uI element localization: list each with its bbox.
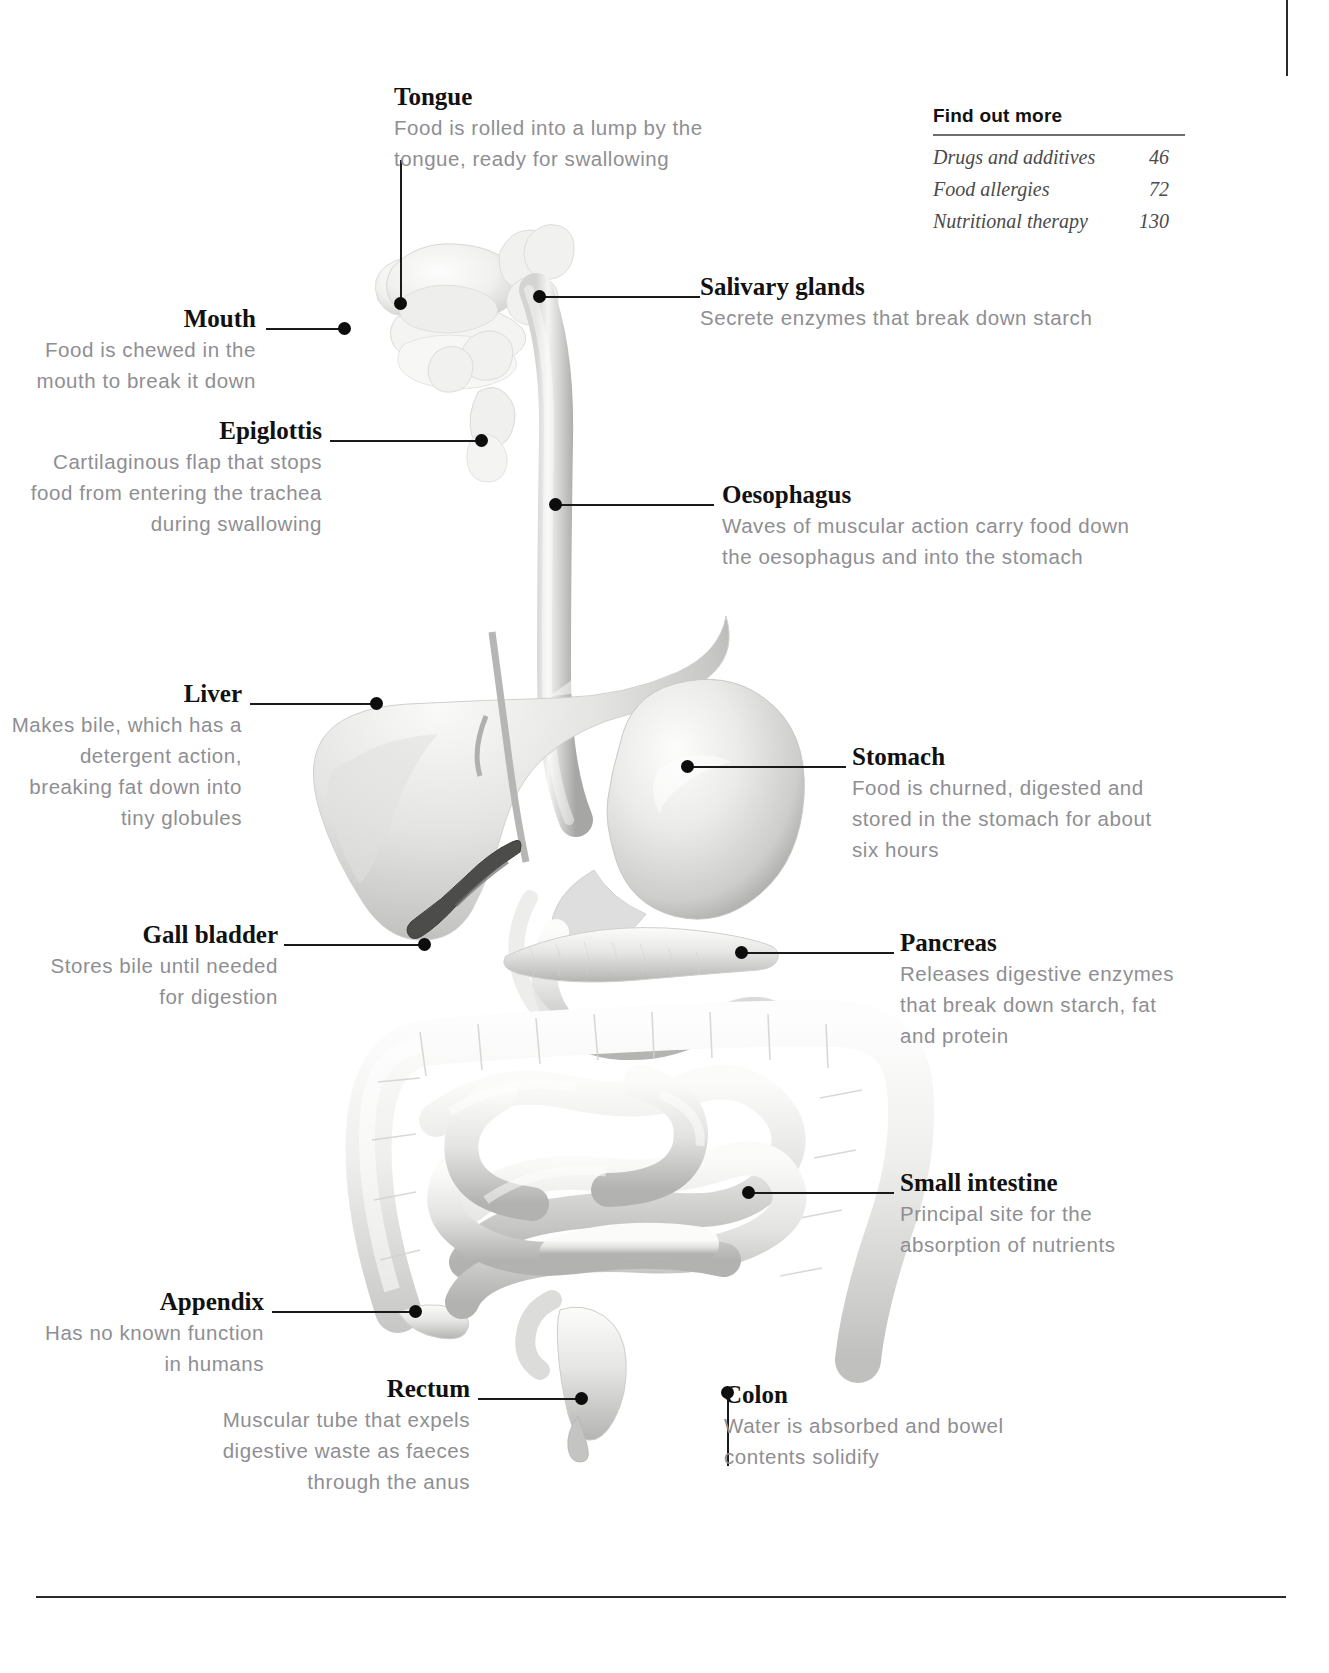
salivary-glands-shape — [428, 225, 574, 393]
callout-small-intestine-body: Principal site for theabsorption of nutr… — [900, 1199, 1190, 1261]
oesophagus-shape — [536, 290, 576, 820]
callout-epiglottis: Epiglottis Cartilaginous flap that stops… — [10, 418, 322, 540]
liver-shape — [313, 616, 729, 940]
callout-mouth-body: Food is chewed in themouth to break it d… — [10, 335, 256, 397]
find-out-more-row[interactable]: Food allergies72 — [933, 174, 1185, 206]
callout-appendix-body: Has no known functionin humans — [10, 1318, 264, 1380]
dot-gall-bladder — [418, 938, 431, 951]
find-out-more-page-number: 130 — [1129, 206, 1185, 238]
callout-small-intestine-title: Small intestine — [900, 1170, 1190, 1196]
callout-stomach-title: Stomach — [852, 744, 1152, 770]
callout-mouth: Mouth Food is chewed in themouth to brea… — [10, 306, 256, 397]
leader-gall-bladder — [284, 944, 426, 946]
dot-liver — [370, 697, 383, 710]
rectum-shape — [525, 1300, 626, 1462]
leader-epiglottis — [330, 440, 482, 442]
callout-mouth-title: Mouth — [10, 306, 256, 332]
find-out-more-table: Drugs and additives46Food allergies72Nut… — [933, 142, 1185, 238]
callout-rectum-title: Rectum — [172, 1376, 470, 1402]
leader-mouth — [266, 328, 346, 330]
callout-stomach: Stomach Food is churned, digested andsto… — [852, 744, 1152, 866]
find-out-more-page-number: 72 — [1129, 174, 1185, 206]
callout-salivary-glands-title: Salivary glands — [700, 274, 1120, 300]
leader-oesophagus — [556, 504, 714, 506]
colon-highlight — [367, 1046, 841, 1290]
callout-salivary-glands-body: Secrete enzymes that break down starch — [700, 303, 1120, 334]
callout-gall-bladder-title: Gall bladder — [10, 922, 278, 948]
callout-rectum: Rectum Muscular tube that expelsdigestiv… — [172, 1376, 470, 1498]
find-out-more-label: Drugs and additives — [933, 142, 1129, 174]
dot-rectum — [575, 1392, 588, 1405]
dot-stomach — [681, 760, 694, 773]
tongue-shape — [400, 285, 498, 333]
find-out-more-row[interactable]: Nutritional therapy130 — [933, 206, 1185, 238]
small-intestine-shape — [436, 1082, 790, 1302]
callout-tongue: Tongue Food is rolled into a lump by the… — [394, 84, 714, 175]
dot-tongue — [394, 297, 407, 310]
find-out-more-label: Food allergies — [933, 174, 1129, 206]
callout-tongue-title: Tongue — [394, 84, 714, 110]
callout-liver-title: Liver — [10, 681, 242, 707]
callout-pancreas-title: Pancreas — [900, 930, 1190, 956]
page-root: Tongue Food is rolled into a lump by the… — [0, 0, 1329, 1673]
callout-rectum-body: Muscular tube that expelsdigestive waste… — [172, 1405, 470, 1497]
leader-stomach — [688, 766, 846, 768]
find-out-more-label: Nutritional therapy — [933, 206, 1129, 238]
callout-epiglottis-title: Epiglottis — [10, 418, 322, 444]
find-out-more-row[interactable]: Drugs and additives46 — [933, 142, 1185, 174]
callout-liver: Liver Makes bile, which has adetergent a… — [10, 681, 242, 833]
callout-pancreas: Pancreas Releases digestive enzymesthat … — [900, 930, 1190, 1052]
callout-pancreas-body: Releases digestive enzymesthat break dow… — [900, 959, 1190, 1051]
dot-salivary-glands — [533, 290, 546, 303]
dot-mouth — [338, 322, 351, 335]
colon-haustra — [372, 1012, 862, 1276]
small-intestine-highlight — [450, 1084, 700, 1200]
find-out-more-page-number: 46 — [1129, 142, 1185, 174]
gall-bladder-shape — [407, 632, 526, 939]
callout-gall-bladder-body: Stores bile until neededfor digestion — [10, 951, 278, 1013]
dot-small-intestine — [742, 1186, 755, 1199]
stomach-shape — [552, 679, 805, 951]
dot-epiglottis — [475, 434, 488, 447]
page-rule-vertical — [1286, 0, 1288, 76]
find-out-more-rule — [933, 134, 1185, 136]
leader-tongue — [400, 160, 402, 302]
leader-rectum — [478, 1398, 582, 1400]
callout-colon-body: Water is absorbed and bowelcontents soli… — [724, 1411, 1024, 1473]
duodenum-shape — [516, 898, 776, 1047]
callout-colon-title: Colon — [724, 1382, 1024, 1408]
callout-oesophagus: Oesophagus Waves of muscular action carr… — [722, 482, 1152, 573]
dot-appendix — [409, 1305, 422, 1318]
callout-oesophagus-title: Oesophagus — [722, 482, 1152, 508]
callout-salivary-glands: Salivary glands Secrete enzymes that bre… — [700, 274, 1120, 334]
callout-stomach-body: Food is churned, digested andstored in t… — [852, 773, 1152, 865]
callout-colon: Colon Water is absorbed and bowelcontent… — [724, 1382, 1024, 1473]
find-out-more-box: Find out more Drugs and additives46Food … — [933, 105, 1185, 238]
dot-pancreas — [735, 946, 748, 959]
find-out-more-heading: Find out more — [933, 105, 1185, 134]
callout-epiglottis-body: Cartilaginous flap that stopsfood from e… — [10, 447, 322, 539]
leader-salivary-glands — [540, 296, 700, 298]
leader-appendix — [272, 1311, 414, 1313]
leader-liver — [250, 703, 378, 705]
callout-liver-body: Makes bile, which has adetergent action,… — [10, 710, 242, 833]
leader-pancreas — [742, 952, 894, 954]
leader-small-intestine — [750, 1192, 894, 1194]
callout-oesophagus-body: Waves of muscular action carry food down… — [722, 511, 1152, 573]
page-rule-bottom — [36, 1596, 1286, 1598]
dot-oesophagus — [549, 498, 562, 511]
callout-small-intestine: Small intestine Principal site for theab… — [900, 1170, 1190, 1261]
callout-gall-bladder: Gall bladder Stores bile until neededfor… — [10, 922, 278, 1013]
callout-appendix-title: Appendix — [10, 1289, 264, 1315]
callout-tongue-body: Food is rolled into a lump by thetongue,… — [394, 113, 714, 175]
callout-appendix: Appendix Has no known functionin humans — [10, 1289, 264, 1380]
